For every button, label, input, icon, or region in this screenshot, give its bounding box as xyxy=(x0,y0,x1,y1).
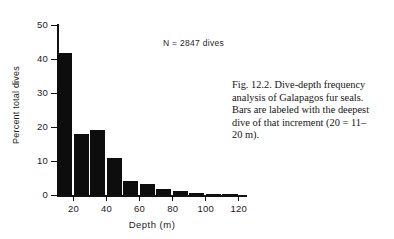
bar xyxy=(189,193,204,195)
x-tick-mark xyxy=(106,196,107,201)
y-tick-mark xyxy=(51,25,57,26)
bar xyxy=(222,194,237,195)
x-tick-mark xyxy=(139,196,140,201)
bar xyxy=(156,189,171,196)
y-tick-label: 50 xyxy=(8,19,48,30)
x-axis-line xyxy=(57,195,247,197)
x-tick-mark xyxy=(238,196,239,201)
x-tick-mark xyxy=(205,196,206,201)
bar xyxy=(123,181,138,195)
bar xyxy=(107,158,122,195)
x-tick-mark xyxy=(73,196,74,201)
sample-size-annotation: N = 2847 dives xyxy=(163,38,224,48)
caption-line: Fig. 12.2. Dive-depth frequency xyxy=(232,79,388,92)
caption-line: dive of that increment (20 = 11– xyxy=(232,117,388,130)
bar xyxy=(173,191,188,195)
bar xyxy=(74,134,89,195)
caption-line: 20 m). xyxy=(232,129,388,142)
y-tick-label: 0 xyxy=(8,189,48,200)
bar xyxy=(90,130,105,195)
bar xyxy=(140,184,155,196)
x-axis-title: Depth (m) xyxy=(97,219,207,230)
caption-line: Bars are labeled with the deepest xyxy=(232,104,388,117)
bar xyxy=(57,53,72,196)
figure-panel: 01020304050 20406080100120 Percent total… xyxy=(0,0,394,239)
x-tick-label: 120 xyxy=(219,203,259,214)
x-tick-mark xyxy=(172,196,173,201)
y-axis-title: Percent total dives xyxy=(11,45,21,165)
caption-line: analysis of Galapagos fur seals. xyxy=(232,92,388,105)
bar xyxy=(206,194,221,195)
figure-caption: Fig. 12.2. Dive-depth frequencyanalysis … xyxy=(232,79,388,142)
